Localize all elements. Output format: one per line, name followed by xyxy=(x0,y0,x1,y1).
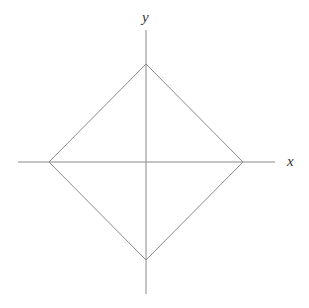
y-axis-label: y xyxy=(140,9,149,25)
diamond-diagram: y x xyxy=(0,0,309,308)
x-axis-label: x xyxy=(286,153,294,169)
